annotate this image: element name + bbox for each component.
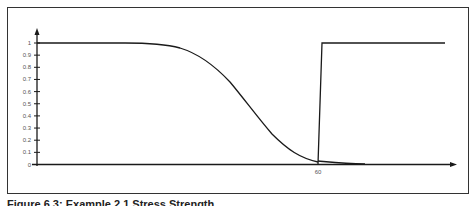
figure-caption: Figure 6.3: Example 2.1 Stress Strength (7, 198, 214, 206)
y-tick-label: 0.6 (23, 89, 32, 95)
y-tick-label: 0.1 (23, 149, 32, 155)
y-tick-label: 0 (28, 162, 32, 168)
x-tick-label-60: 60 (315, 169, 322, 175)
y-tick-label: 0.4 (23, 113, 32, 119)
y-tick-label: 0.2 (23, 137, 32, 143)
y-tick-label: 0.9 (23, 52, 32, 58)
y-tick-label: 1 (28, 40, 32, 46)
tail-density-curve (318, 161, 365, 164)
x-axis: 60 (32, 162, 457, 175)
reliability-curve (37, 43, 318, 162)
x-axis-arrow-icon (450, 162, 457, 167)
y-tick-label: 0.7 (23, 76, 32, 82)
step-function-line (318, 43, 445, 164)
y-axis-arrow-icon (35, 28, 40, 35)
y-axis: 00.10.20.30.40.50.60.70.80.91 (23, 28, 40, 168)
y-tick-label: 0.3 (23, 125, 32, 131)
chart-svg: 00.10.20.30.40.50.60.70.80.91 60 (0, 0, 476, 206)
y-tick-label: 0.5 (23, 101, 32, 107)
y-tick-label: 0.8 (23, 64, 32, 70)
